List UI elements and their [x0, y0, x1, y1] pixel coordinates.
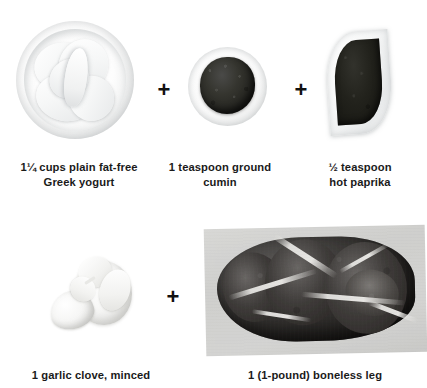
plus-separator-1: + — [153, 79, 175, 101]
caption-boneless-leg: 1 (1-pound) boneless leg — [215, 368, 415, 383]
photo-film-grain — [204, 225, 427, 357]
caption-greek-yogurt: 1¼ cups plain fat-free Greek yogurt — [4, 160, 154, 190]
cumin-bowl-shape — [188, 47, 267, 126]
ground-cumin-image — [188, 47, 267, 126]
yogurt-bowl-shape — [16, 21, 134, 139]
boneless-leg-image — [204, 225, 427, 357]
caption-ground-cumin: 1 teaspoon ground cumin — [155, 160, 285, 190]
cumin-powder — [200, 57, 255, 114]
caption-garlic-clove: 1 garlic clove, minced — [6, 368, 176, 383]
cumin-grain-texture — [200, 57, 255, 114]
garlic-clove-image — [48, 255, 134, 333]
caption-hot-paprika: ½ teaspoon hot paprika — [297, 160, 423, 190]
greek-yogurt-image — [16, 21, 134, 139]
plus-separator-3: + — [162, 286, 184, 308]
plus-separator-2: + — [290, 79, 312, 101]
yogurt-bowl-interior — [24, 29, 125, 130]
hot-paprika-image — [327, 31, 391, 134]
